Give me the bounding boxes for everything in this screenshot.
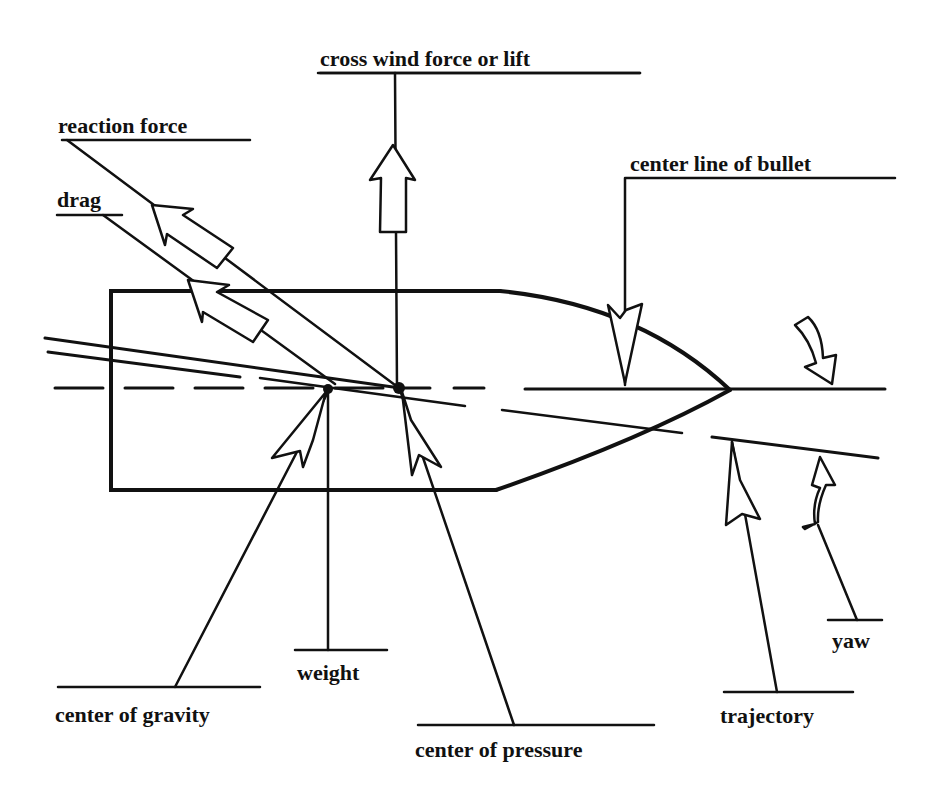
center-of-gravity-leader — [58, 392, 328, 687]
cross-wind-leader — [318, 73, 640, 388]
center-line-leader — [625, 178, 895, 385]
center-of-gravity-label: center of gravity — [55, 702, 210, 727]
center-of-pressure-leader — [400, 390, 654, 725]
bullet-force-diagram: cross wind force or lift reaction force … — [0, 0, 943, 806]
reaction-force-label: reaction force — [58, 113, 188, 138]
yaw-arrow-up-icon — [803, 457, 835, 529]
trajectory-label: trajectory — [720, 703, 814, 728]
yaw-leader — [818, 525, 882, 620]
lift-arrow-icon — [370, 145, 415, 232]
yaw-label: yaw — [832, 628, 870, 653]
trajectory-leader — [724, 442, 853, 692]
center-line-arrow-icon — [608, 304, 642, 383]
center-line-label: center line of bullet — [630, 151, 812, 176]
drag-label: drag — [57, 187, 101, 212]
yaw-arrow-down-icon — [795, 317, 836, 384]
weight-label: weight — [297, 660, 360, 685]
center-axis — [55, 388, 885, 389]
cross-wind-label: cross wind force or lift — [320, 46, 531, 71]
trajectory-line — [45, 338, 878, 458]
gravity-arrow-icon — [272, 392, 326, 467]
pressure-arrow-icon — [402, 392, 441, 475]
trajectory-arrow-icon — [726, 442, 760, 525]
center-of-pressure-label: center of pressure — [415, 737, 583, 762]
